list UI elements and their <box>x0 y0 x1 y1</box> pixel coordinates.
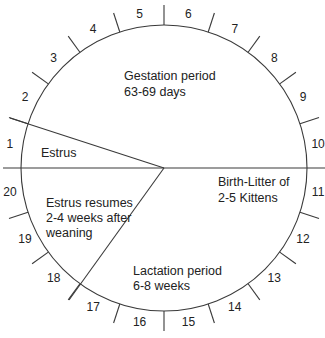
sector-tick <box>208 304 214 323</box>
sector-tick <box>32 252 48 264</box>
sector-tick <box>248 36 260 52</box>
sector-tick <box>68 284 80 300</box>
sector-number-19: 19 <box>18 232 32 246</box>
sector-number-2: 2 <box>22 90 29 104</box>
lactation-label-line2: 6-8 weeks <box>133 279 190 293</box>
estrus-resumes-label-line1: Estrus resumes <box>46 196 133 210</box>
sector-tick <box>280 252 296 264</box>
gestation-label-line2: 63-69 days <box>124 85 186 99</box>
sector-tick <box>9 118 28 124</box>
estrus-divider-line <box>10 118 164 168</box>
sector-tick <box>280 72 296 84</box>
birth-label-line1: Birth-Litter of <box>218 175 290 189</box>
sector-tick <box>9 212 28 218</box>
sector-number-14: 14 <box>228 300 242 314</box>
birth-label-line2: 2-5 Kittens <box>218 191 278 205</box>
sector-number-16: 16 <box>133 315 147 329</box>
sector-tick <box>32 72 48 84</box>
sector-number-9: 9 <box>300 90 307 104</box>
sector-tick <box>300 212 319 218</box>
sector-number-10: 10 <box>311 137 325 151</box>
sector-number-20: 20 <box>3 185 17 199</box>
gestation-label-line1: Gestation period <box>124 69 216 83</box>
sector-tick <box>248 284 260 300</box>
sector-number-1: 1 <box>7 137 14 151</box>
estrus-resumes-label-line3: weaning <box>45 226 93 240</box>
lactation-label-line1: Lactation period <box>133 264 222 278</box>
sector-number-8: 8 <box>271 51 278 65</box>
sector-tick <box>208 13 214 32</box>
sector-number-13: 13 <box>268 271 282 285</box>
sector-number-3: 3 <box>50 51 57 65</box>
estrus-label: Estrus <box>41 146 76 160</box>
sector-number-11: 11 <box>312 185 325 199</box>
sector-number-5: 5 <box>136 7 143 21</box>
cat-reproductive-cycle-diagram: 1234567891011121314151617181920 Estrus G… <box>0 0 325 338</box>
sector-tick <box>114 13 120 32</box>
estrus-resumes-label-line2: 2-4 weeks after <box>46 211 131 225</box>
sector-number-15: 15 <box>182 315 196 329</box>
sector-number-17: 17 <box>87 300 101 314</box>
sector-number-6: 6 <box>185 7 192 21</box>
sector-number-7: 7 <box>231 22 238 36</box>
sector-number-18: 18 <box>47 271 61 285</box>
sector-tick <box>300 118 319 124</box>
sector-tick <box>114 304 120 323</box>
sector-number-12: 12 <box>296 232 310 246</box>
sector-number-4: 4 <box>90 22 97 36</box>
sector-tick <box>68 36 80 52</box>
